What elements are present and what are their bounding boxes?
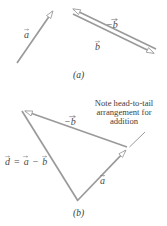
- annotation-leader-line: [130, 132, 146, 147]
- equation-equals-sign: =: [13, 156, 22, 167]
- equation-term-b: b: [42, 157, 47, 167]
- caption-panel-b: (b): [73, 209, 84, 219]
- label-minus-b-text: −b: [106, 19, 118, 30]
- panel-a-vectors: [17, 9, 156, 63]
- equation-d-equals-a-minus-b: d = a − b: [5, 157, 47, 167]
- label-vector-b-panel-a: b: [95, 42, 100, 52]
- annotation-note: Note head-to-tail arrangement for additi…: [82, 99, 166, 126]
- vector-a-shaft-panel-a: [17, 12, 53, 64]
- label-vector-minus-b-panel-b: −b: [64, 117, 76, 127]
- note-line-3: addition: [82, 117, 166, 126]
- label-a-text: a: [24, 29, 29, 40]
- label-b-text: b: [95, 41, 100, 52]
- figure-container: a −b b (a) Note head-to-tail arr: [0, 0, 167, 226]
- label-vector-a-panel-b: a: [100, 176, 105, 186]
- caption-panel-a: (a): [73, 71, 84, 81]
- label-vector-a-panel-a: a: [24, 30, 29, 40]
- label-minus-b-text: −b: [64, 116, 76, 127]
- equation-term-d: d: [5, 157, 10, 167]
- equation-minus-sign: −: [31, 156, 40, 167]
- label-vector-minus-b-panel-a: −b: [106, 20, 118, 30]
- label-a-text: a: [100, 175, 105, 186]
- equation-term-a: a: [24, 157, 29, 167]
